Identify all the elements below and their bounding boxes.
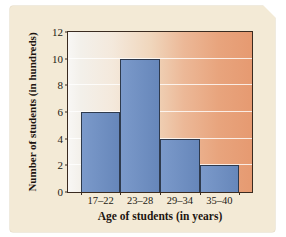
x-tick-label-35-40: 35–40: [206, 196, 232, 207]
x-tickmark-4: [239, 192, 240, 195]
bar-35-40: [200, 165, 240, 192]
plot-area: 0 2 4 6 8 10 12 17–22 23–28 29–34 35–40: [67, 31, 253, 193]
bar-23-28: [120, 59, 160, 192]
bar-29-34: [160, 139, 200, 192]
y-tick-label-0: 0: [58, 187, 64, 198]
y-tickmark-4: [65, 138, 68, 139]
y-tickmark-8: [65, 85, 68, 86]
gridline-10: [68, 58, 252, 59]
gridline-8: [68, 84, 252, 85]
y-tickmark-12: [65, 32, 68, 33]
bar-17-22: [81, 112, 121, 192]
y-tick-label-12: 12: [52, 27, 63, 38]
y-axis-title-text: Number of students (in hundreds): [26, 32, 38, 191]
y-tick-label-4: 4: [58, 133, 64, 144]
y-tickmark-2: [65, 165, 68, 166]
y-tick-label-2: 2: [58, 160, 64, 171]
y-tick-label-6: 6: [58, 107, 64, 118]
x-tick-label-17-22: 17–22: [88, 196, 114, 207]
y-tick-label-10: 10: [52, 53, 63, 64]
x-tickmark-2: [160, 192, 161, 195]
y-axis-title: Number of students (in hundreds): [24, 31, 40, 193]
x-tick-label-23-28: 23–28: [127, 196, 153, 207]
x-tickmark-0: [81, 192, 82, 195]
y-tickmark-10: [65, 58, 68, 59]
x-tickmark-3: [200, 192, 201, 195]
x-tick-label-29-34: 29–34: [167, 196, 193, 207]
y-tickmark-0: [65, 192, 68, 193]
x-tickmark-1: [120, 192, 121, 195]
y-tick-label-8: 8: [58, 80, 64, 91]
x-axis-title: Age of students (in years): [67, 210, 253, 222]
y-tickmark-6: [65, 112, 68, 113]
